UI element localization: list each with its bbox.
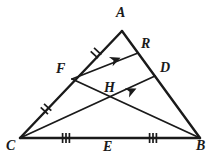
vertex-label-E: E (103, 140, 112, 154)
vertex-label-F: F (56, 62, 65, 76)
vertex-label-C: C (6, 139, 15, 153)
vertex-label-D: D (160, 61, 170, 75)
vertex-label-B: B (196, 139, 205, 153)
vertex-label-H: H (104, 81, 115, 95)
vertex-label-A: A (116, 6, 125, 20)
segment-FB (72, 79, 200, 138)
tick-mark-AF (91, 48, 102, 58)
side-AB (122, 31, 200, 138)
inner-segments (20, 53, 200, 138)
vertex-label-R: R (141, 37, 150, 51)
segment-FR (72, 53, 138, 79)
tick-stroke (94, 48, 101, 55)
geometry-canvas (0, 0, 211, 157)
tick-stroke (91, 51, 98, 58)
geometry-figure: A R F D H C E B (0, 0, 211, 157)
